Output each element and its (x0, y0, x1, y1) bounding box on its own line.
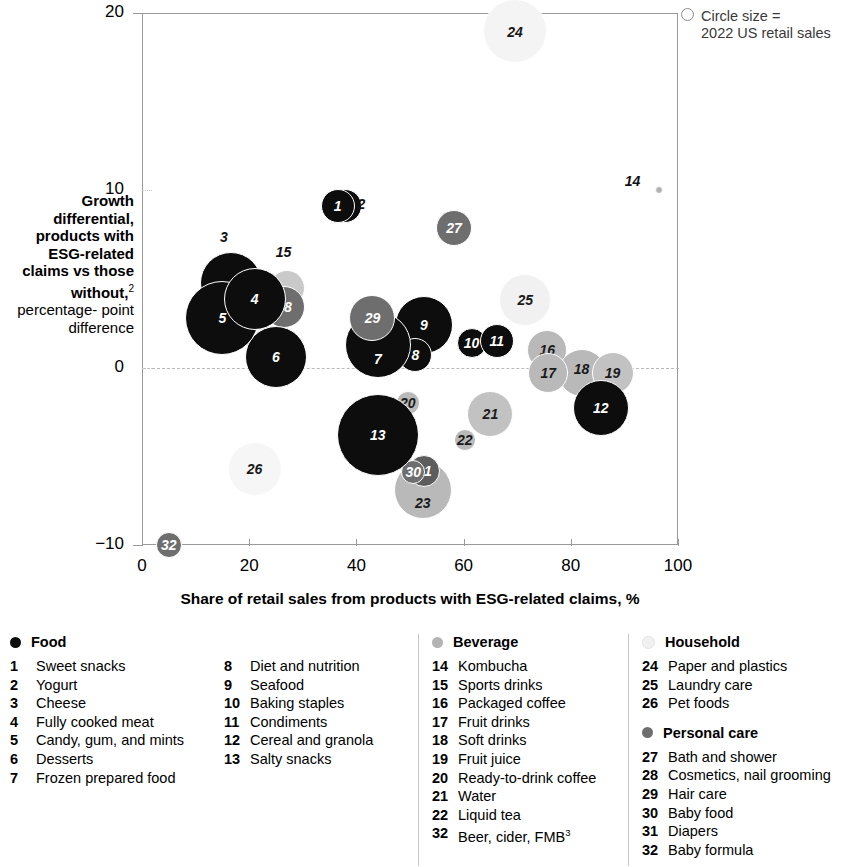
legend-item-number: 4 (10, 713, 31, 732)
bubble-label-1: 1 (334, 199, 342, 213)
legend-item-name: Baking staples (250, 694, 344, 713)
legend-item-number: 25 (642, 676, 663, 695)
circle-outline-icon (681, 8, 694, 21)
bubble-32[interactable]: 32 (156, 532, 182, 558)
bubble-12[interactable]: 12 (573, 380, 629, 436)
legend-dot-food (10, 637, 21, 648)
legend-item-number: 8 (224, 657, 245, 676)
legend-item-name: Cereal and granola (250, 731, 373, 750)
legend-item-number: 20 (432, 769, 453, 788)
legend-item-number: 5 (10, 731, 31, 750)
legend-item-number: 6 (10, 750, 31, 769)
legend-group-beverage: Beverage14Kombucha15Sports drinks16Packa… (432, 634, 596, 847)
bubble-26[interactable]: 26 (228, 442, 282, 496)
bubble-21[interactable]: 21 (467, 391, 513, 437)
bubble-label-17: 17 (540, 366, 556, 380)
legend-column-beverage: Beverage14Kombucha15Sports drinks16Packa… (432, 634, 596, 847)
bubble-label-32: 32 (161, 538, 177, 552)
bubble-label-27: 27 (446, 221, 462, 235)
bubble-22[interactable]: 22 (454, 429, 476, 451)
bubble-label-24: 24 (507, 25, 523, 39)
bubble-label-2: 2 (358, 196, 366, 212)
bubble-label-26: 26 (247, 462, 263, 476)
category-legend: Food1Sweet snacks2Yogurt3Cheese4Fully co… (0, 626, 855, 867)
bubble-4[interactable]: 4 (224, 268, 286, 330)
legend-item-name: Baby formula (668, 841, 753, 860)
x-tick-label: 100 (648, 556, 708, 576)
legend-spacer (642, 713, 831, 725)
legend-item-number: 32 (432, 824, 453, 846)
legend-item-number: 17 (432, 713, 453, 732)
x-tick-mark (249, 539, 250, 546)
x-tick-mark (571, 539, 572, 546)
bubble-label-7: 7 (374, 352, 382, 366)
legend-group-title: Personal care (663, 725, 758, 741)
legend-item: 12Cereal and granola (224, 731, 373, 750)
legend-item-name: Liquid tea (458, 806, 521, 825)
legend-dot-personal-care (642, 727, 653, 738)
legend-item-number: 28 (642, 766, 663, 785)
bubble-label-9: 9 (420, 318, 428, 332)
legend-item-name: Fully cooked meat (36, 713, 154, 732)
bubble-label-5: 5 (218, 311, 226, 325)
legend-item-name: Water (458, 787, 496, 806)
x-tick-label: 60 (434, 556, 494, 576)
legend-item-name: Cosmetics, nail grooming (668, 766, 831, 785)
bubble-24[interactable]: 24 (483, 0, 547, 63)
y-tick-mark (142, 190, 152, 191)
y-axis-title-sub1: percentage- (17, 301, 97, 318)
legend-dot-household (642, 636, 655, 649)
legend-item: 27Bath and shower (642, 748, 831, 767)
legend-item-name: Cheese (36, 694, 86, 713)
legend-item: 19Fruit juice (432, 750, 596, 769)
legend-item-name: Desserts (36, 750, 93, 769)
bubble-11[interactable]: 11 (480, 324, 514, 358)
legend-group-title: Beverage (453, 634, 518, 650)
bubble-label-19: 19 (605, 366, 621, 380)
x-tick-label: 80 (541, 556, 601, 576)
legend-item: 22Liquid tea (432, 806, 596, 825)
legend-column-household: Household24Paper and plastics25Laundry c… (642, 634, 831, 859)
legend-item: 24Paper and plastics (642, 657, 831, 676)
x-tick-label: 40 (326, 556, 386, 576)
legend-item-name: Hair care (668, 785, 727, 804)
bubble-label-29: 29 (365, 311, 381, 325)
bubble-size-legend: Circle size =2022 US retail sales (681, 8, 855, 42)
legend-item-number: 13 (224, 750, 245, 769)
bubble-1[interactable]: 1 (321, 189, 355, 223)
legend-divider-2 (628, 634, 629, 866)
y-tick-label: 20 (54, 2, 124, 22)
y-tick-mark (133, 13, 142, 14)
legend-item-number: 12 (224, 731, 245, 750)
legend-item-name: Packaged coffee (458, 694, 566, 713)
legend-item-name: Paper and plastics (668, 657, 787, 676)
legend-group-household: Household24Paper and plastics25Laundry c… (642, 634, 831, 713)
x-tick-mark (464, 539, 465, 546)
bubble-27[interactable]: 27 (436, 210, 472, 246)
bubble-chart: 20100−10 020406080100 242625142315212216… (0, 0, 855, 867)
x-tick-label: 0 (112, 556, 172, 576)
legend-item-number: 15 (432, 676, 453, 695)
legend-item: 26Pet foods (642, 694, 831, 713)
legend-item-name: Condiments (250, 713, 327, 732)
legend-item: 17Fruit drinks (432, 713, 596, 732)
bubble-13[interactable]: 13 (337, 394, 419, 476)
y-tick-mark (133, 545, 142, 546)
legend-column-food: Food1Sweet snacks2Yogurt3Cheese4Fully co… (10, 634, 397, 787)
legend-group-personal-care: Personal care27Bath and shower28Cosmetic… (642, 725, 831, 860)
legend-item: 4Fully cooked meat (10, 713, 200, 732)
legend-item-number: 21 (432, 787, 453, 806)
legend-item: 2Yogurt (10, 676, 200, 695)
legend-item: 6Desserts (10, 750, 200, 769)
bubble-17[interactable]: 17 (528, 353, 568, 393)
bubble-label-3: 3 (220, 229, 228, 245)
y-axis-title: Growth differential, products with ESG-r… (0, 192, 134, 336)
legend-item: 7Frozen prepared food (10, 769, 200, 788)
legend-item-name: Fruit drinks (458, 713, 530, 732)
legend-item-name: Diapers (668, 822, 718, 841)
bubble-label-11: 11 (490, 334, 505, 348)
legend-item-number: 32 (642, 841, 663, 860)
legend-item: 32Baby formula (642, 841, 831, 860)
bubble-label-4: 4 (251, 292, 259, 306)
legend-group-food: Food1Sweet snacks2Yogurt3Cheese4Fully co… (10, 634, 397, 787)
